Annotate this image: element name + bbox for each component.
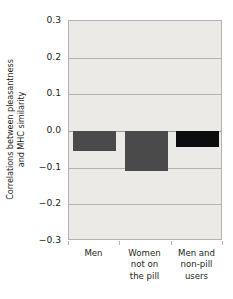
x-axis-category-label-line: users [171,271,222,282]
y-axis-tick-label: −0.3 [39,235,61,244]
y-axis-title: Correlations between pleasantness and MH… [0,0,30,258]
y-axis-tick-label: 0.2 [46,52,61,61]
x-axis-category-label: Men [68,248,119,259]
x-axis-category-label: Men andnon-pillusers [171,248,222,282]
y-axis-tick-labels: 0.30.20.10.0−0.1−0.2−0.3 [30,0,65,299]
x-axis-category-label: Womennot onthe pill [119,248,170,282]
y-axis-tick-label: 0.0 [46,125,61,134]
x-axis-category-label-line: not on [119,259,170,270]
plot-area [68,20,222,240]
gridline [69,204,221,205]
x-axis-category-label-line: Women [119,248,170,259]
y-axis-tick-label: −0.1 [39,162,61,171]
bar [73,131,116,151]
chart-figure: Correlations between pleasantness and MH… [0,0,233,299]
bar [176,131,219,147]
x-axis-tick-mark [119,241,120,245]
x-axis-category-label-line: the pill [119,271,170,282]
gridline [69,58,221,59]
y-axis-title-line-1: Correlations between pleasantness [5,59,16,200]
bar [125,131,168,171]
gridline [69,94,221,95]
y-axis-tick-label: −0.2 [39,198,61,207]
x-axis-category-label-line: Men [68,248,119,259]
y-axis-tick-label: 0.1 [46,88,61,97]
x-axis-tick-mark [68,241,69,245]
y-axis-title-line-2: and MHC similarity [15,59,26,200]
x-axis-category-label-line: non-pill [171,259,222,270]
x-axis-category-label-line: Men and [171,248,222,259]
y-axis-tick-label: 0.3 [46,15,61,24]
x-axis-category-labels: MenWomennot onthe pillMen andnon-pilluse… [68,248,222,296]
x-axis-tick-mark [222,241,223,245]
x-axis-tick-mark [171,241,172,245]
